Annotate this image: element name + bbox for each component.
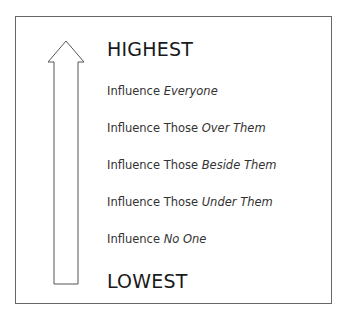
lowest-label: LOWEST	[107, 270, 188, 292]
level-emphasis: Beside Them	[202, 158, 277, 172]
level-item: Influence Everyone	[107, 84, 218, 98]
level-prefix: Influence	[107, 84, 164, 98]
level-prefix: Influence Those	[107, 195, 202, 209]
level-emphasis: Over Them	[202, 121, 266, 135]
level-item: Influence Those Beside Them	[107, 158, 276, 172]
level-emphasis: Everyone	[164, 84, 218, 98]
level-item: Influence No One	[107, 232, 206, 246]
level-prefix: Influence Those	[107, 121, 202, 135]
level-item: Influence Those Over Them	[107, 121, 266, 135]
level-emphasis: Under Them	[202, 195, 273, 209]
level-item: Influence Those Under Them	[107, 195, 273, 209]
level-emphasis: No One	[164, 232, 207, 246]
level-prefix: Influence Those	[107, 158, 202, 172]
highest-label: HIGHEST	[107, 38, 193, 60]
level-prefix: Influence	[107, 232, 164, 246]
